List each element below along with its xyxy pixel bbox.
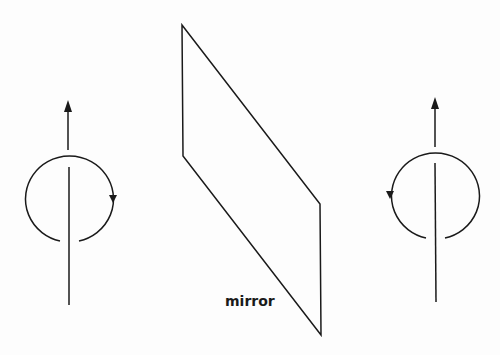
left-rotation-arrowhead-icon [109, 195, 117, 203]
diagram-canvas: mirror [0, 0, 500, 355]
mirror-plane [182, 25, 321, 335]
right-axis-arrowhead-icon [431, 97, 439, 109]
left-rotation-axis [26, 100, 117, 305]
mirror-outline [182, 25, 321, 335]
right-rotation-arrowhead-icon [386, 191, 394, 199]
mirror-label: mirror [225, 293, 275, 309]
right-rotation-axis [386, 97, 480, 302]
right-axis-line [435, 163, 436, 302]
left-axis-arrowhead-icon [64, 100, 72, 112]
